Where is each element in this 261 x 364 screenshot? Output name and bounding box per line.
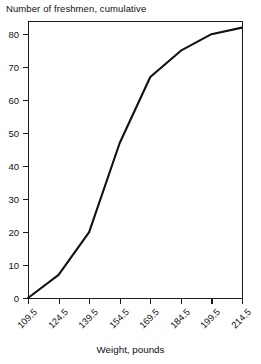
x-tick-label: 199.5 [199,307,223,331]
y-tick-label: 80 [8,29,19,40]
x-tick-label: 139.5 [77,307,101,331]
x-tick [242,299,243,304]
x-tick-label: 154.5 [107,307,131,331]
x-tick-label: 184.5 [168,307,192,331]
y-tick-label: 20 [8,227,19,238]
y-tick-label: 40 [8,161,19,172]
x-axis-title: Weight, pounds [0,344,261,355]
x-tick-label: 214.5 [230,307,254,331]
x-tick [89,299,90,304]
x-tick [59,299,60,304]
y-tick-label: 50 [8,128,19,139]
x-tick [181,299,182,304]
x-tick [150,299,151,304]
y-tick-label: 30 [8,194,19,205]
x-tick [28,299,29,304]
ogive-curve [28,21,243,299]
cumulative-frequency-chart: Number of freshmen, cumulative 010203040… [0,0,261,364]
y-tick-label: 60 [8,95,19,106]
plot-area: 01020304050607080 109.5124.5139.5154.516… [28,21,243,299]
y-tick-label: 10 [8,260,19,271]
x-tick-label: 109.5 [16,307,40,331]
y-tick-label: 70 [8,62,19,73]
x-tick [211,299,212,304]
x-tick-label: 124.5 [46,307,70,331]
y-tick-label: 0 [14,293,19,304]
x-tick [120,299,121,304]
x-tick-label: 169.5 [138,307,162,331]
chart-title: Number of freshmen, cumulative [6,3,146,14]
